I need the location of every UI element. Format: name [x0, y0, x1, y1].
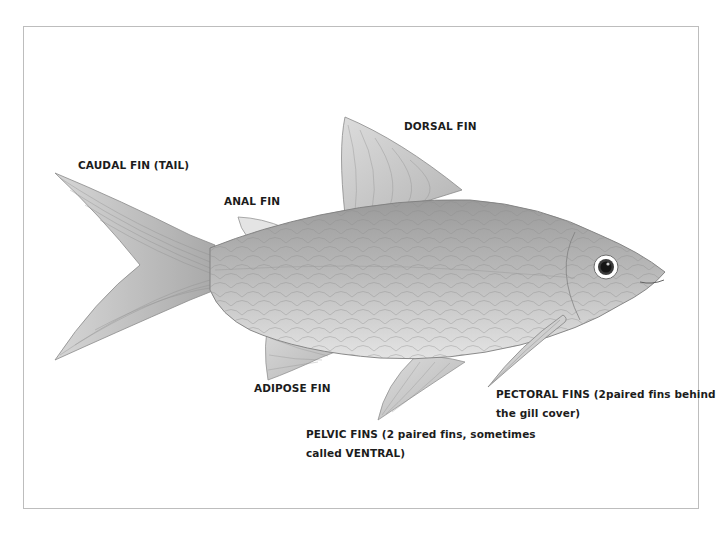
label-caudal-fin: CAUDAL FIN (TAIL) [78, 156, 189, 175]
label-anal-fin-text: ANAL FIN [224, 195, 280, 207]
label-anal-fin: ANAL FIN [224, 192, 280, 211]
fish-body [210, 200, 665, 359]
caudal-fin-shape [55, 173, 215, 360]
label-caudal-fin-text: CAUDAL FIN (TAIL) [78, 159, 189, 171]
label-dorsal-fin-text: DORSAL FIN [404, 120, 477, 132]
label-dorsal-fin: DORSAL FIN [404, 117, 477, 136]
label-pelvic-fins-line2: called VENTRAL) [306, 444, 536, 463]
label-pectoral-fins: PECTORAL FINS (2paired fins behind the g… [496, 385, 716, 423]
label-pectoral-fins-line2: the gill cover) [496, 404, 716, 423]
label-adipose-fin: ADIPOSE FIN [254, 379, 331, 398]
fish-eye [594, 255, 618, 279]
label-pectoral-fins-line1: PECTORAL FINS (2paired fins behind [496, 385, 716, 404]
label-pelvic-fins: PELVIC FINS (2 paired fins, sometimes ca… [306, 425, 536, 463]
label-adipose-fin-text: ADIPOSE FIN [254, 382, 331, 394]
pelvic-fin-shape [378, 357, 465, 420]
label-pelvic-fins-line1: PELVIC FINS (2 paired fins, sometimes [306, 425, 536, 444]
